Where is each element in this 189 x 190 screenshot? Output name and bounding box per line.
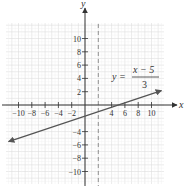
x-axis-label: x [178,99,184,110]
line-graph: −10−8−6−4−246810 108642−4−6−8−10 x y y =… [0,0,189,190]
x-tick-label: −6 [41,109,50,118]
x-tick-label: 10 [148,109,156,118]
y-tick-label: −4 [72,128,81,137]
y-tick-label: −10 [68,168,81,177]
x-tick-label: 6 [123,109,127,118]
equation-lhs: y = [111,71,126,82]
x-tick-label: −8 [28,109,37,118]
y-tick-label: 4 [77,74,81,83]
equation-numerator: x − 5 [132,64,154,75]
y-tick-label: 8 [77,48,81,57]
equation-denominator: 3 [142,79,147,90]
y-tick-label: 10 [73,35,81,44]
x-tick-label: 4 [110,109,114,118]
y-tick-label: −8 [72,154,81,163]
x-tick-label: −2 [67,109,76,118]
y-tick-label: −6 [72,141,81,150]
axes [2,8,177,186]
y-tick-label: 6 [77,61,81,70]
y-axis-label: y [80,0,86,9]
x-tick-label: −4 [54,109,63,118]
x-tick-label: 8 [136,109,140,118]
x-tick-label: −10 [12,109,25,118]
y-tick-label: 2 [77,88,81,97]
